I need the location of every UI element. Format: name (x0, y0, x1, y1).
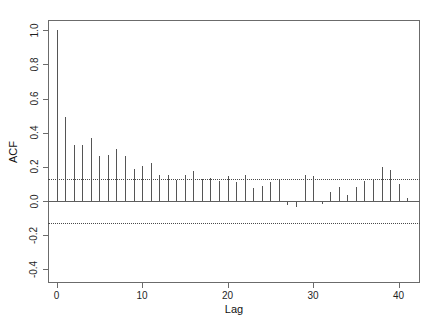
acf-bar (91, 138, 92, 201)
acf-bar (82, 145, 83, 201)
acf-bar (356, 187, 357, 201)
x-axis-tick (57, 283, 58, 288)
acf-bar (364, 181, 365, 201)
plot-area: 1.00.80.60.40.20.0-0.2-0.4 010203040 (48, 20, 420, 283)
x-axis-tick (313, 283, 314, 288)
x-axis-tick (228, 283, 229, 288)
acf-plot-figure: ACF 1.00.80.60.40.20.0-0.2-0.4 010203040… (0, 0, 436, 325)
upper-confidence-band (48, 179, 420, 180)
y-axis-tick (43, 235, 48, 236)
acf-bar (236, 182, 237, 201)
y-axis-tick-label-text: 1.0 (30, 23, 41, 37)
y-axis-tick-label-text: 0.2 (30, 160, 41, 174)
acf-bar (176, 180, 177, 201)
acf-bar (65, 117, 66, 201)
acf-bar (382, 167, 383, 201)
acf-bar (390, 170, 391, 201)
y-axis-title-text: ACF (7, 141, 19, 163)
acf-bar (330, 192, 331, 201)
y-axis-tick (43, 201, 48, 202)
x-axis-tick-label-text: 30 (308, 290, 319, 301)
x-axis-tick-label-text: 10 (137, 290, 148, 301)
acf-bar (219, 181, 220, 201)
acf-bar (279, 180, 280, 201)
lower-confidence-band (48, 223, 420, 224)
y-axis-tick-label-text: 0.0 (30, 194, 41, 208)
acf-bar (202, 179, 203, 201)
y-axis-tick (43, 30, 48, 31)
acf-bar (134, 169, 135, 201)
acf-bar (253, 188, 254, 201)
y-axis-tick-label-text: -0.4 (28, 261, 39, 278)
x-axis-tick-label-text: 20 (222, 290, 233, 301)
acf-bar (399, 184, 400, 201)
acf-bar (210, 178, 211, 201)
y-axis-tick (43, 269, 48, 270)
acf-bar (142, 166, 143, 201)
y-axis-tick-label-text: 0.8 (30, 57, 41, 71)
zero-reference-line (48, 201, 420, 202)
x-axis-title-text: Lag (225, 303, 243, 315)
y-axis-title: ACF (6, 0, 20, 303)
x-axis-tick-label-text: 0 (54, 290, 60, 301)
acf-bar (373, 179, 374, 201)
acf-bar (116, 149, 117, 201)
x-axis-tick-label-text: 40 (393, 290, 404, 301)
y-axis-tick-label-text: 0.4 (30, 126, 41, 140)
acf-bar (270, 182, 271, 201)
acf-bar (193, 171, 194, 201)
acf-bar (57, 30, 58, 201)
y-axis-tick-label-text: 0.6 (30, 92, 41, 106)
acf-bar (339, 187, 340, 201)
y-axis-tick (43, 167, 48, 168)
acf-bar (74, 145, 75, 201)
x-axis-title: Lag (48, 303, 420, 315)
acf-bar (151, 163, 152, 201)
y-axis-tick (43, 64, 48, 65)
x-axis-tick (399, 283, 400, 288)
acf-bar (108, 155, 109, 201)
y-axis-tick (43, 133, 48, 134)
y-axis-tick-label-text: -0.2 (28, 227, 39, 244)
x-axis-tick (142, 283, 143, 288)
acf-bar (262, 186, 263, 201)
y-axis-tick (43, 99, 48, 100)
